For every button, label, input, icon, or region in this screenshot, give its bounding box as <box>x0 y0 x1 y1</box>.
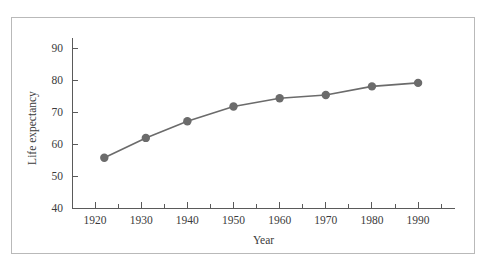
y-tick-label: 80 <box>52 74 64 86</box>
x-tick-label: 1920 <box>84 214 107 226</box>
x-tick-label: 1980 <box>360 214 383 226</box>
y-tick-label: 70 <box>52 106 64 118</box>
line-chart: 4050607080901920193019401950196019701980… <box>0 0 489 274</box>
data-point <box>142 134 150 142</box>
x-axis-title: Year <box>253 234 274 246</box>
data-point <box>183 117 191 125</box>
x-tick-label: 1930 <box>130 214 153 226</box>
data-point <box>100 154 108 162</box>
y-tick-label: 40 <box>52 202 64 214</box>
series-line-0 <box>104 83 418 158</box>
y-tick-label: 50 <box>52 170 64 182</box>
data-point <box>229 102 237 110</box>
data-point <box>414 79 422 87</box>
data-point <box>322 91 330 99</box>
figure-container: 4050607080901920193019401950196019701980… <box>0 0 489 274</box>
x-tick-label: 1970 <box>314 214 337 226</box>
x-tick-label: 1960 <box>268 214 291 226</box>
y-tick-label: 60 <box>52 138 64 150</box>
data-point <box>368 82 376 90</box>
x-tick-label: 1990 <box>407 214 430 226</box>
data-point <box>275 94 283 102</box>
y-tick-label: 90 <box>52 42 64 54</box>
y-axis-title: Life expectancy <box>26 91 39 165</box>
x-tick-label: 1940 <box>176 214 199 226</box>
x-tick-label: 1950 <box>222 214 245 226</box>
